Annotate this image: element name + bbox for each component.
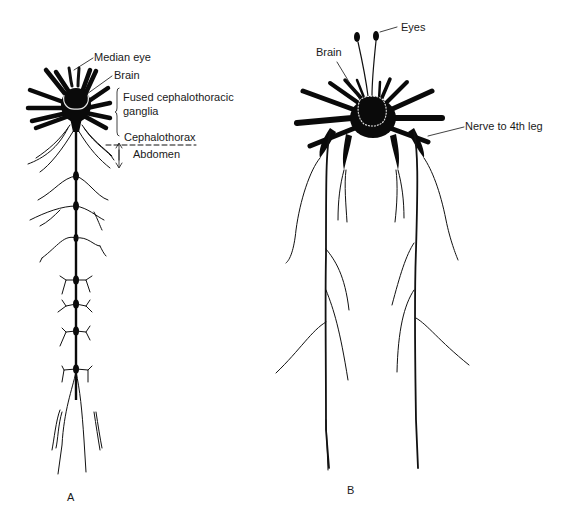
panel-b-diagram: Eyes Brain Nerve to 4th leg B	[276, 21, 543, 496]
label-eyes: Eyes	[401, 21, 426, 33]
panel-label-a: A	[67, 491, 75, 503]
panel-label-b: B	[347, 484, 354, 496]
label-median-eye: Median eye	[94, 51, 151, 63]
label-brain-a: Brain	[114, 69, 140, 81]
label-abdomen: Abdomen	[133, 148, 180, 160]
label-fused-ganglia-line2: ganglia	[123, 105, 159, 117]
nervous-system-figure: Median eye Brain Fused cephalothoracic g…	[0, 0, 564, 529]
label-nerve-4th-leg: Nerve to 4th leg	[465, 120, 543, 132]
label-brain-b: Brain	[316, 46, 342, 58]
label-fused-ganglia-line1: Fused cephalothoracic	[123, 91, 234, 103]
label-cephalothorax: Cephalothorax	[124, 131, 196, 143]
panel-a-diagram: Median eye Brain Fused cephalothoracic g…	[28, 51, 234, 503]
